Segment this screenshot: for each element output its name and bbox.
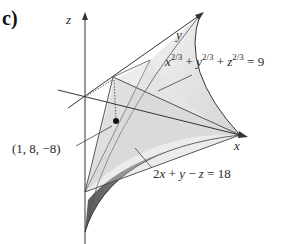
z-axis-label: z bbox=[66, 13, 71, 26]
point-marker bbox=[113, 118, 119, 124]
projection-dotted-1 bbox=[85, 80, 112, 97]
y-axis-label: y bbox=[176, 28, 182, 41]
x-axis-label: x bbox=[234, 139, 240, 152]
part-label: c) bbox=[2, 8, 18, 28]
x-axis-arrow bbox=[238, 131, 248, 138]
point-label: (1, 8, −8) bbox=[12, 142, 61, 155]
plane-equation: 2x + y − z = 18 bbox=[153, 167, 231, 180]
z-axis-arrow bbox=[82, 12, 88, 20]
surface-equation: x2/3 + y2/3 + z2/3 = 9 bbox=[165, 53, 264, 68]
astroid-surface-diagram bbox=[0, 0, 307, 244]
